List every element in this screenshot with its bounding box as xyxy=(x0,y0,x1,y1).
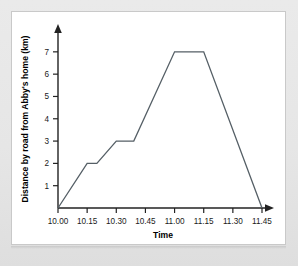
y-tick-label-7: 7 xyxy=(44,48,49,57)
panel-shadow xyxy=(11,246,286,249)
x-tick-label-11.45: 11.45 xyxy=(252,217,272,226)
x-tick-label-11.30: 11.30 xyxy=(223,217,243,226)
y-tick-label-3: 3 xyxy=(44,137,49,146)
distance-time-line-chart: 1234567 10.0010.1510.3010.4511.0011.1511… xyxy=(12,12,285,244)
y-axis: 1234567 xyxy=(44,24,61,208)
y-axis-arrow-icon xyxy=(54,24,62,33)
x-tick-label-10.15: 10.15 xyxy=(77,217,98,226)
data-series-group xyxy=(58,52,262,208)
x-tick-label-10.45: 10.45 xyxy=(135,217,156,226)
x-tick-label-10.30: 10.30 xyxy=(106,217,127,226)
y-axis-ticks xyxy=(53,52,58,186)
chart-screenshot: 1234567 10.0010.1510.3010.4511.0011.1511… xyxy=(0,0,298,266)
y-tick-label-4: 4 xyxy=(44,115,49,124)
x-tick-label-11.00: 11.00 xyxy=(165,217,185,226)
x-axis: 10.0010.1510.3010.4511.0011.1511.3011.45 xyxy=(48,204,274,226)
journey-line xyxy=(58,52,262,208)
x-axis-tick-labels: 10.0010.1510.3010.4511.0011.1511.3011.45 xyxy=(48,217,273,226)
x-tick-label-11.15: 11.15 xyxy=(194,217,214,226)
y-axis-title: Distance by road from Abby's home (km) xyxy=(20,35,30,202)
y-axis-tick-labels: 1234567 xyxy=(44,48,49,191)
x-axis-ticks xyxy=(58,208,262,213)
x-axis-title: Time xyxy=(153,230,173,240)
x-tick-label-10.00: 10.00 xyxy=(48,217,69,226)
x-axis-arrow-icon xyxy=(265,204,274,212)
chart-panel: 1234567 10.0010.1510.3010.4511.0011.1511… xyxy=(11,11,286,245)
y-tick-label-5: 5 xyxy=(44,92,49,101)
y-tick-label-1: 1 xyxy=(44,182,49,191)
y-tick-label-6: 6 xyxy=(44,70,49,79)
y-tick-label-2: 2 xyxy=(44,159,49,168)
